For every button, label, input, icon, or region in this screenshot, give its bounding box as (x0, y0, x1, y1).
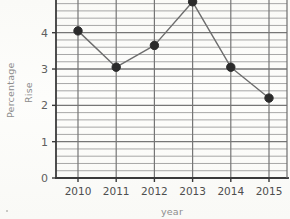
y-tick-label: 0 (41, 172, 48, 185)
major-gridlines (56, 33, 287, 142)
y-axis-tick-labels: 01234 (41, 27, 48, 185)
x-axis-title: year (161, 206, 183, 217)
y-tick-label: 1 (41, 136, 48, 149)
paper-speck (6, 210, 8, 212)
x-tick-label: 2015 (256, 185, 283, 197)
x-tick-label: 2012 (141, 185, 168, 197)
data-point-2011 (112, 63, 120, 71)
data-point-2010 (74, 27, 82, 35)
y-axis-title-line1: Percentage (5, 63, 16, 118)
data-point-2013 (188, 0, 196, 6)
y-axis-title-line2: Rise (23, 82, 34, 103)
minor-gridlines (56, 4, 287, 171)
x-tick-label: 2013 (179, 185, 206, 197)
x-tick-label: 2014 (217, 185, 244, 197)
line-chart: 01234 201020112012201320142015 Percentag… (0, 0, 290, 219)
chart-container: 01234 201020112012201320142015 Percentag… (0, 0, 290, 219)
y-axis-title: Percentage Rise (5, 63, 34, 118)
y-tick-label: 3 (41, 63, 48, 76)
data-point-2015 (265, 94, 273, 102)
vertical-gridlines (78, 0, 269, 178)
data-point-2014 (227, 63, 235, 71)
data-point-markers (74, 0, 273, 102)
x-tick-label: 2010 (65, 185, 92, 197)
x-axis-tick-labels: 201020112012201320142015 (65, 185, 283, 197)
x-tick-label: 2011 (103, 185, 130, 197)
data-point-2012 (150, 41, 158, 49)
y-tick-label: 2 (41, 99, 48, 112)
y-tick-label: 4 (41, 27, 48, 40)
chart-axes (56, 0, 288, 178)
